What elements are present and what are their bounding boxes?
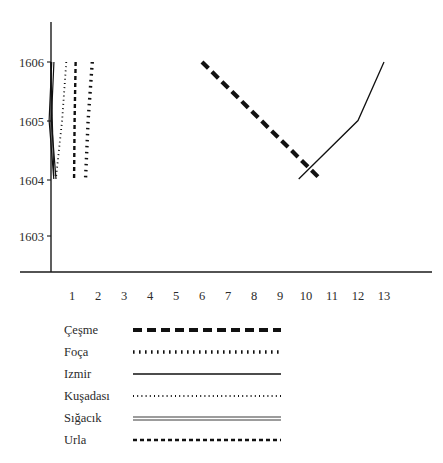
x-tick-label: 12 [352,289,365,303]
y-tick-label: 1606 [19,56,44,70]
legend-label-kusadasi: Kuşadası [64,389,110,403]
legend-label-cesme: Çeşme [64,323,98,337]
x-tick-label: 6 [199,289,205,303]
legend-label-izmir: Izmir [64,367,92,381]
x-tick-label: 10 [300,289,313,303]
x-tick-label: 7 [225,289,231,303]
x-tick-label: 5 [173,289,179,303]
legend-label-urla: Urla [64,433,87,447]
x-tick-label: 9 [277,289,283,303]
y-tick-label: 1603 [19,230,44,244]
x-tick-label: 4 [147,289,154,303]
legend-label-foca: Foça [64,345,89,359]
y-tick-label: 1604 [19,174,45,188]
chart-figure: 1606 1605 1604 1603 1 2 3 4 5 6 7 8 9 10… [0,0,443,463]
x-tick-label: 8 [251,289,257,303]
x-tick-label: 2 [95,289,101,303]
x-tick-label: 13 [378,289,391,303]
x-tick-label: 1 [69,289,75,303]
x-tick-label: 11 [326,289,338,303]
legend-label-sigacik: Sığacık [64,411,102,425]
series-line-urla [74,62,76,179]
x-tick-label: 3 [121,289,127,303]
y-tick-label: 1605 [19,115,44,129]
